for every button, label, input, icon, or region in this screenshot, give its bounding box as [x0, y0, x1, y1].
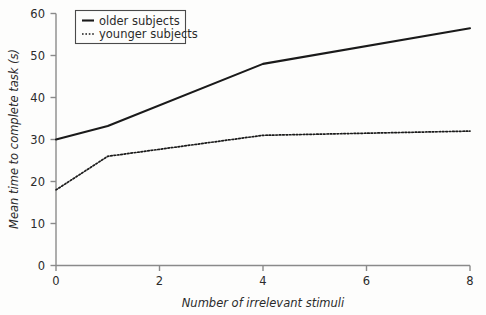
series-group	[56, 28, 470, 190]
y-axis-tick-labels: 60 50 40 30 20 10 0	[30, 7, 45, 273]
y-tick-label-20: 20	[30, 175, 45, 189]
x-tick-label-2: 2	[156, 274, 163, 288]
x-axis-ticks	[56, 266, 470, 272]
y-tick-label-40: 40	[30, 91, 45, 105]
series-younger-subjects-line	[56, 131, 470, 190]
y-axis-title: Mean time to complete task (s)	[7, 49, 21, 229]
series-older-subjects-line	[56, 28, 470, 139]
y-tick-label-0: 0	[38, 259, 45, 273]
chart-legend: older subjects younger subjects	[76, 11, 198, 44]
legend-label-older-subjects: older subjects	[99, 14, 180, 28]
y-tick-label-50: 50	[30, 49, 45, 63]
axes-group	[56, 14, 470, 266]
legend-label-younger-subjects: younger subjects	[99, 27, 198, 41]
y-tick-label-30: 30	[30, 133, 45, 147]
x-tick-label-0: 0	[52, 274, 59, 288]
chart-figure: 60 50 40 30 20 10 0 0 2 4 6 8 Number of …	[0, 0, 486, 315]
x-tick-label-8: 8	[466, 274, 473, 288]
line-chart-canvas: 60 50 40 30 20 10 0 0 2 4 6 8 Number of …	[0, 0, 486, 315]
x-axis-tick-labels: 0 2 4 6 8	[52, 274, 473, 288]
x-axis-title: Number of irrelevant stimuli	[182, 296, 345, 310]
x-tick-label-6: 6	[363, 274, 370, 288]
y-tick-label-60: 60	[30, 7, 45, 21]
x-tick-label-4: 4	[259, 274, 266, 288]
y-tick-label-10: 10	[30, 217, 45, 231]
